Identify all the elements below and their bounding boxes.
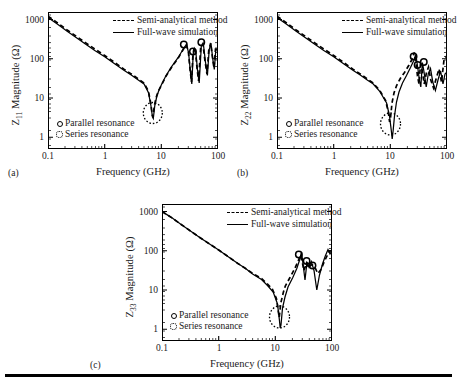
panel-b-legend-row-semi-analytical: Semi-analytical method <box>342 15 457 27</box>
panel-a-ytick-100: 100 <box>8 54 44 64</box>
panel-b-marker-row-series: Series resonance <box>283 129 363 140</box>
panel-a-caption-label: (a) <box>8 168 19 178</box>
panel-b-marker-row-parallel: Parallel resonance <box>283 118 363 129</box>
panel-c: Z33 Magnitude (Ω) 1000 100 10 1 <box>114 192 342 382</box>
panel-a-marker-label-parallel: Parallel resonance <box>65 118 134 129</box>
panel-a-series-resonance-marker <box>143 103 162 124</box>
panel-b-y-axis-symbol: Z <box>239 119 250 126</box>
panel-c-y-axis-symbol: Z <box>124 311 135 318</box>
panel-b-parallel-resonance-markers <box>410 53 427 68</box>
panel-b-ytick-1000: 1000 <box>237 15 273 25</box>
panel-b-marker-label-series: Series resonance <box>294 129 358 140</box>
panel-a-ytick-10: 10 <box>8 93 44 103</box>
panel-c-line-legend: Semi-analytical method Full-wave simulat… <box>227 207 342 230</box>
panel-b-marker-label-parallel: Parallel resonance <box>294 118 363 129</box>
panel-b: Z22 Magnitude (Ω) 1000 100 10 1 <box>229 0 457 190</box>
panel-b-y-axis-subscript: 22 <box>244 111 253 119</box>
panel-c-xtick-10: 10 <box>263 343 287 353</box>
panel-c-legend-label-full-wave: Full-wave simulation <box>251 219 332 231</box>
panel-c-marker-legend: Parallel resonance Series resonance <box>168 310 248 332</box>
panel-c-ytick-10: 10 <box>122 285 158 295</box>
panel-b-legend-label-semi-analytical: Semi-analytical method <box>366 15 457 27</box>
panel-b-xtick-10: 10 <box>378 151 402 161</box>
dashed-line-key-icon <box>227 208 248 217</box>
dotted-circle-icon <box>168 323 179 330</box>
panel-c-legend-row-semi-analytical: Semi-analytical method <box>227 207 342 219</box>
panel-c-y-axis-subscript: 33 <box>129 303 138 311</box>
panel-b-xtick-1: 1 <box>322 151 346 161</box>
panel-b-ytick-1: 1 <box>237 132 273 142</box>
panel-a-legend-label-full-wave: Full-wave simulation <box>137 27 218 39</box>
panel-a-ytick-1000: 1000 <box>8 15 44 25</box>
dotted-circle-icon <box>54 131 65 138</box>
panel-a-xtick-1: 1 <box>93 151 117 161</box>
panel-a-xtick-0.1: 0.1 <box>36 151 60 161</box>
panel-c-y-axis-label: Z33 Magnitude (Ω) <box>124 227 138 327</box>
panel-a-legend-row-full-wave: Full-wave simulation <box>113 27 228 39</box>
panel-b-xtick-100: 100 <box>435 151 457 161</box>
dashed-line-key-icon <box>342 16 363 25</box>
panel-c-ytick-1: 1 <box>122 324 158 334</box>
panel-b-xtick-0.1: 0.1 <box>265 151 289 161</box>
panel-c-xtick-100: 100 <box>320 343 344 353</box>
panel-c-xtick-0.1: 0.1 <box>150 343 174 353</box>
panel-c-legend-label-semi-analytical: Semi-analytical method <box>251 207 342 219</box>
panel-a-line-legend: Semi-analytical method Full-wave simulat… <box>113 15 228 38</box>
panel-a-y-axis-symbol: Z <box>10 119 21 126</box>
panel-c-marker-row-series: Series resonance <box>168 321 248 332</box>
panel-a-ytick-1: 1 <box>8 132 44 142</box>
solid-line-key-icon <box>227 220 248 229</box>
panel-a-marker-label-series: Series resonance <box>65 129 129 140</box>
dotted-circle-icon <box>283 131 294 138</box>
open-circle-icon <box>168 313 179 319</box>
panel-c-marker-label-parallel: Parallel resonance <box>179 310 248 321</box>
panel-a-marker-legend: Parallel resonance Series resonance <box>54 118 134 140</box>
bottom-horizontal-rule <box>5 374 452 377</box>
panel-b-line-legend: Semi-analytical method Full-wave simulat… <box>342 15 457 38</box>
panel-b-ytick-100: 100 <box>237 54 273 64</box>
panel-c-ytick-100: 100 <box>122 246 158 256</box>
panel-b-x-axis-label: Frequency (GHz) <box>307 166 417 177</box>
panel-b-legend-label-full-wave: Full-wave simulation <box>366 27 447 39</box>
panel-a-y-axis-label: Z11 Magnitude (Ω) <box>10 35 24 135</box>
panel-c-legend-row-full-wave: Full-wave simulation <box>227 219 342 231</box>
panel-a-marker-row-series: Series resonance <box>54 129 134 140</box>
panel-b-caption-label: (b) <box>237 168 248 178</box>
open-circle-icon <box>54 121 65 127</box>
panel-a-marker-row-parallel: Parallel resonance <box>54 118 134 129</box>
panel-b-marker-legend: Parallel resonance Series resonance <box>283 118 363 140</box>
panel-a-legend-label-semi-analytical: Semi-analytical method <box>137 15 228 27</box>
panel-b-y-axis-label: Z22 Magnitude (Ω) <box>239 35 253 135</box>
panel-a: Z11 Magnitude (Ω) 1000 100 10 1 <box>0 0 228 190</box>
panel-a-y-axis-subscript: 11 <box>15 112 24 119</box>
solid-line-key-icon <box>113 28 134 37</box>
panel-c-marker-label-series: Series resonance <box>179 321 243 332</box>
panel-a-xtick-10: 10 <box>149 151 173 161</box>
panel-a-x-axis-label: Frequency (GHz) <box>78 166 188 177</box>
panel-a-legend-row-semi-analytical: Semi-analytical method <box>113 15 228 27</box>
panel-c-xtick-1: 1 <box>207 343 231 353</box>
panel-b-ytick-10: 10 <box>237 93 273 103</box>
panel-c-caption-label: (c) <box>90 360 101 370</box>
solid-line-key-icon <box>342 28 363 37</box>
open-circle-icon <box>283 121 294 127</box>
panel-c-x-axis-label: Frequency (GHz) <box>192 358 302 369</box>
panel-c-marker-row-parallel: Parallel resonance <box>168 310 248 321</box>
dashed-line-key-icon <box>113 16 134 25</box>
panel-c-ytick-1000: 1000 <box>122 207 158 217</box>
panel-b-legend-row-full-wave: Full-wave simulation <box>342 27 457 39</box>
panel-a-xtick-100: 100 <box>206 151 230 161</box>
